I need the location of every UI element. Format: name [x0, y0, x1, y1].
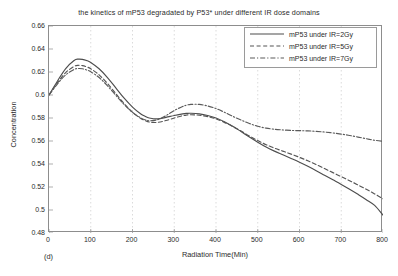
subfigure-label: (d): [44, 252, 53, 261]
y-tick-label: 0.66: [5, 22, 45, 29]
legend-item-1[interactable]: mP53 under IR=2Gy: [245, 28, 376, 40]
x-tick-label: 200: [126, 236, 138, 243]
legend-line-sample: [249, 53, 285, 63]
x-tick-label: 500: [251, 236, 263, 243]
legend-label: mP53 under IR=2Gy: [289, 31, 353, 38]
page-title: the kinetics of mP53 degradated by P53* …: [0, 8, 398, 17]
x-tick-label: 100: [84, 236, 96, 243]
y-tick-label: 0.52: [5, 183, 45, 190]
x-axis-tick-labels: 0100200300400500600700800: [48, 236, 382, 248]
x-tick-label: 600: [293, 236, 305, 243]
x-tick-label: 400: [209, 236, 221, 243]
legend: mP53 under IR=2GymP53 under IR=5GymP53 u…: [244, 27, 377, 68]
y-tick-label: 0.64: [5, 45, 45, 52]
legend-item-3[interactable]: mP53 under IR=7Gy: [245, 52, 376, 64]
x-tick-label: 800: [376, 236, 388, 243]
legend-item-2[interactable]: mP53 under IR=5Gy: [245, 40, 376, 52]
x-axis-label: Radiation Time(Min): [48, 250, 382, 259]
y-axis-label: Concentration: [9, 85, 18, 165]
legend-line-sample: [249, 29, 285, 39]
legend-label: mP53 under IR=7Gy: [289, 55, 353, 62]
x-tick-label: 700: [334, 236, 346, 243]
legend-label: mP53 under IR=5Gy: [289, 43, 353, 50]
x-tick-label: 0: [46, 236, 50, 243]
chart-figure: the kinetics of mP53 degradated by P53* …: [0, 0, 398, 276]
y-tick-label: 0.5: [5, 206, 45, 213]
legend-line-sample: [249, 41, 285, 51]
x-tick-label: 300: [167, 236, 179, 243]
y-tick-label: 0.62: [5, 68, 45, 75]
y-tick-label: 0.48: [5, 229, 45, 236]
